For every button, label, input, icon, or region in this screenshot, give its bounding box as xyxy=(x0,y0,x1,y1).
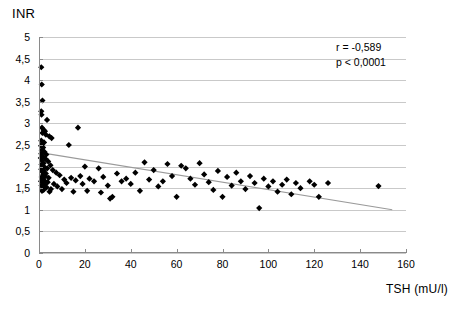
x-axis-title: TSH (mU/l) xyxy=(386,282,448,296)
stats-annotation: r = -0,589 p < 0,0001 xyxy=(336,40,386,70)
x-tick-label: 160 xyxy=(386,258,426,270)
x-tick-label: 100 xyxy=(248,258,288,270)
y-tick-label: 4 xyxy=(0,74,30,86)
y-axis-title: INR xyxy=(12,6,35,21)
x-tick-label: 20 xyxy=(65,258,105,270)
correlation-coefficient: r = -0,589 xyxy=(336,40,386,55)
x-tick-label: 40 xyxy=(111,258,151,270)
y-tick-label: 4,5 xyxy=(0,53,30,65)
x-tick-label: 60 xyxy=(157,258,197,270)
scatter-chart: INR 00,511,522,533,544,55 02040608010012… xyxy=(0,0,456,310)
y-tick-label: 1,5 xyxy=(0,182,30,194)
y-tick-label: 3 xyxy=(0,117,30,129)
x-tick-label: 80 xyxy=(203,258,243,270)
y-tick-label: 0,5 xyxy=(0,225,30,237)
x-tick-label: 120 xyxy=(294,258,334,270)
y-tick-label: 1 xyxy=(0,204,30,216)
y-tick-label: 5 xyxy=(0,31,30,43)
p-value: p < 0,0001 xyxy=(336,55,386,70)
x-tick-label: 0 xyxy=(19,258,59,270)
y-tick-label: 2,5 xyxy=(0,139,30,151)
y-tick-label: 2 xyxy=(0,161,30,173)
x-tick-label: 140 xyxy=(340,258,380,270)
y-tick-label: 3,5 xyxy=(0,96,30,108)
